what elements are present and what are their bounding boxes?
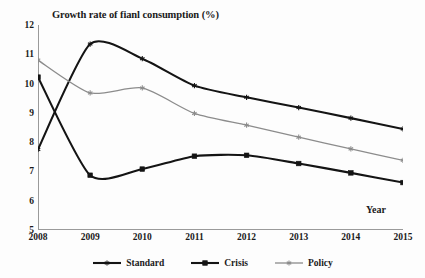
legend-item-standard[interactable]: Standard: [92, 257, 164, 269]
data-point-marker: [38, 75, 40, 80]
y-axis-tick-label: 7: [12, 166, 34, 176]
plot-area: [38, 25, 403, 230]
legend-item-policy[interactable]: Policy: [274, 257, 333, 269]
legend-marker-square-icon: [190, 257, 220, 269]
legend-label: Policy: [308, 258, 333, 268]
x-axis-tick-label: 2013: [279, 232, 319, 242]
chart-legend: StandardCrisisPolicy: [0, 252, 425, 274]
x-axis-tick-label: 2009: [70, 232, 110, 242]
y-axis-tick-label: 9: [12, 108, 34, 118]
legend-item-crisis[interactable]: Crisis: [190, 257, 248, 269]
series-policy: [38, 58, 403, 163]
series-line-standard: [38, 41, 403, 149]
y-axis-tick-labels: 56789101112: [10, 25, 34, 230]
legend-marker-star-icon: [92, 257, 122, 269]
data-point-marker: [88, 173, 93, 178]
data-point-marker: [401, 180, 403, 185]
chart-title: Growth rate of fianl consumption (%): [52, 9, 219, 20]
y-axis-tick-label: 6: [12, 196, 34, 206]
x-axis-tick-label: 2011: [174, 232, 214, 242]
x-axis-tick-label: 2010: [122, 232, 162, 242]
x-axis-tick-label: 2015: [383, 232, 423, 242]
chart-plot-svg: [38, 25, 403, 230]
legend-label: Standard: [126, 258, 164, 268]
y-axis-tick-label: 11: [12, 49, 34, 59]
data-point-marker: [140, 167, 145, 172]
x-axis-tick-label: 2014: [331, 232, 371, 242]
data-point-marker: [192, 154, 197, 159]
series-line-policy: [38, 60, 403, 160]
data-point-marker: [203, 261, 208, 266]
y-axis-tick-label: 12: [12, 20, 34, 30]
legend-label: Crisis: [224, 258, 248, 268]
chart-figure: Growth rate of fianl consumption (%) 567…: [0, 0, 425, 278]
y-axis-tick-label: 10: [12, 79, 34, 89]
x-axis-tick-label: 2008: [18, 232, 58, 242]
data-point-marker: [244, 153, 249, 158]
x-axis-title: Year: [366, 204, 386, 215]
y-axis-tick-label: 8: [12, 137, 34, 147]
x-axis-tick-label: 2012: [227, 232, 267, 242]
legend-marker-star-icon: [274, 257, 304, 269]
data-point-marker: [296, 161, 301, 166]
series-standard: [38, 41, 403, 152]
data-point-marker: [349, 171, 354, 176]
x-axis-tick-labels: 20082009201020112012201320142015: [38, 232, 403, 248]
